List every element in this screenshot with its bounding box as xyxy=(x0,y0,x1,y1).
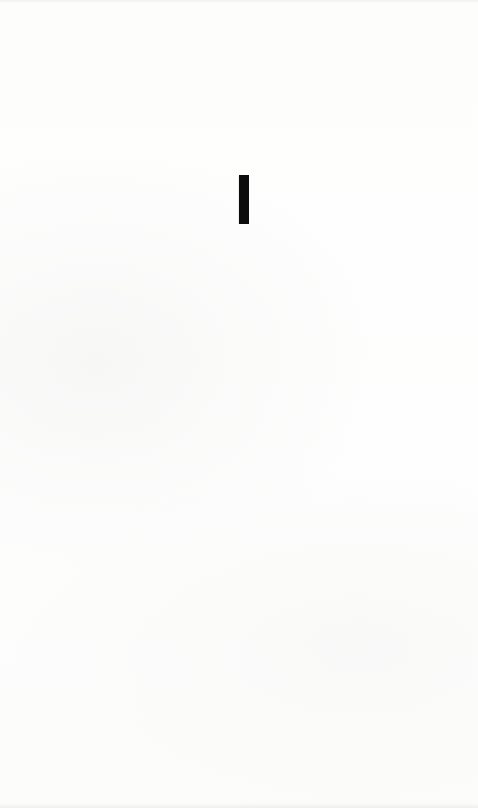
scan-edge-top xyxy=(0,0,478,3)
scan-edge-bottom xyxy=(0,803,478,808)
scanned-book-page: I xyxy=(0,0,478,808)
part-numeral-row: I xyxy=(5,165,478,235)
part-numeral: I xyxy=(234,165,253,235)
